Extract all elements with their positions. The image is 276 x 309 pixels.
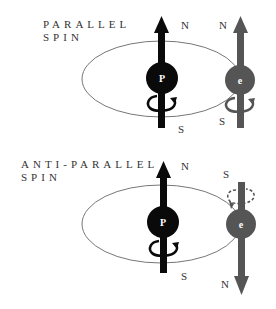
- anti-parallel-panel: P e N S S N: [82, 160, 256, 295]
- proton-south-label: S: [178, 123, 184, 135]
- proton-north-label: N: [181, 160, 189, 172]
- electron-arrow-head-down: [234, 276, 249, 295]
- electron-arrow-head-up: [233, 16, 248, 33]
- electron-letter: e: [239, 219, 244, 230]
- electron-north-label: N: [219, 19, 227, 31]
- electron-bottom-pole-label: N: [221, 278, 229, 290]
- proton: P: [147, 161, 179, 273]
- proton: P: [146, 16, 178, 128]
- electron-south-label: S: [219, 115, 225, 127]
- proton-letter: P: [159, 73, 165, 84]
- electron-letter: e: [238, 75, 243, 86]
- proton-arrow-head-up: [156, 161, 171, 178]
- proton-letter: P: [160, 217, 166, 228]
- spin-diagram: P e N S N S P: [0, 0, 276, 309]
- electron: e: [225, 16, 255, 128]
- parallel-panel: P e N S N S: [82, 16, 255, 135]
- electron: e: [226, 182, 256, 295]
- electron-top-pole-label: S: [223, 168, 229, 180]
- proton-south-label: S: [181, 270, 187, 282]
- proton-north-label: N: [181, 19, 189, 31]
- proton-arrow-head-up: [154, 16, 169, 33]
